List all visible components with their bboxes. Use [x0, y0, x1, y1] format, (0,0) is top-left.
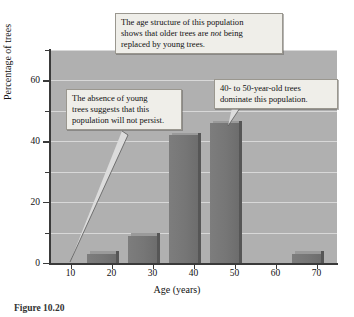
bar-top-face	[213, 121, 242, 124]
callout-line-2-suffix: being	[221, 28, 242, 38]
callout-line-2: dominate this population.	[220, 94, 333, 105]
x-axis-label-50: 50	[230, 268, 240, 278]
y-axis-label-20: 20	[31, 197, 41, 207]
callout-line-1: 40- to 50-year-old trees	[220, 83, 333, 94]
callout-line-2: shows that older trees are not being	[121, 28, 278, 39]
y-tick-60	[43, 80, 49, 81]
x-axis-label-20: 20	[107, 268, 117, 278]
y-tick-70	[45, 50, 49, 51]
x-axis-label-40: 40	[189, 268, 199, 278]
y-tick-30	[45, 172, 49, 173]
figure-bar-chart: 0 20 40 60 10 20 30 40 50 60 70 Age (yea…	[0, 0, 354, 317]
bar-side-face	[157, 233, 160, 263]
callout-age-structure: The age structure of this population sho…	[115, 13, 283, 54]
bar-top-face	[172, 133, 201, 136]
callout-line-2: trees suggests that this	[72, 104, 177, 115]
y-axis-label-0: 0	[35, 258, 40, 268]
callout-emphasis-not: not	[211, 28, 222, 38]
x-axis-title: Age (years)	[0, 284, 354, 295]
bar-age-40	[169, 135, 199, 263]
y-axis-line	[49, 49, 51, 264]
x-axis-label-30: 30	[148, 268, 158, 278]
bar-face	[128, 236, 157, 263]
bar-side-face	[198, 133, 201, 263]
y-tick-20	[43, 202, 49, 203]
figure-caption-label: Figure 10.20	[14, 303, 65, 313]
bar-age-20	[87, 254, 117, 263]
callout-line-3: population will not persist.	[72, 115, 177, 126]
bar-top-face	[90, 251, 119, 254]
bar-top-face	[131, 233, 160, 236]
y-tick-40	[43, 141, 49, 142]
bar-top-face	[295, 251, 324, 254]
bar-face	[210, 123, 239, 263]
bar-age-30	[128, 236, 158, 263]
callout-line-2-prefix: shows that older trees are	[121, 28, 211, 38]
callout-line-1: The age structure of this population	[121, 17, 278, 28]
callout-absence-young-trees: The absence of young trees suggests that…	[66, 89, 182, 130]
y-axis-title: Percentage of trees	[2, 0, 13, 100]
bar-side-face	[321, 251, 324, 263]
bar-age-50	[210, 123, 240, 263]
y-tick-10	[45, 233, 49, 234]
bar-side-face	[239, 121, 242, 264]
x-axis-label-70: 70	[312, 268, 322, 278]
y-axis-label-40: 40	[31, 136, 41, 146]
y-tick-50	[45, 111, 49, 112]
bar-face	[292, 254, 321, 263]
y-axis-label-60: 60	[31, 75, 41, 85]
callout-line-1: The absence of young	[72, 93, 177, 104]
callout-dominant-age-class: 40- to 50-year-old trees dominate this p…	[214, 79, 338, 109]
x-axis-label-60: 60	[271, 268, 281, 278]
x-axis-label-10: 10	[66, 268, 76, 278]
bar-face	[169, 135, 198, 263]
bar-face	[87, 254, 116, 263]
y-tick-0	[43, 263, 49, 264]
figure-caption: Figure 10.20	[14, 303, 344, 313]
callout-line-3: replaced by young trees.	[121, 39, 278, 50]
bar-side-face	[116, 251, 119, 263]
bar-age-70	[292, 254, 322, 263]
